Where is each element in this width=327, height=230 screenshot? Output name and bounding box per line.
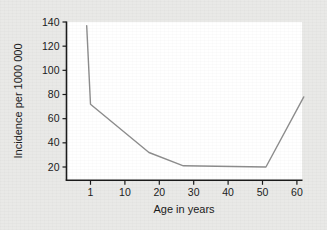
- x-tick-label: 40: [222, 186, 234, 198]
- x-tick-label: 10: [119, 186, 131, 198]
- x-tick-label: 60: [291, 186, 303, 198]
- y-tick-label: 80: [48, 88, 60, 100]
- y-tick-label: 100: [42, 64, 60, 76]
- y-tick-label: 60: [48, 112, 60, 124]
- plot-area-background: [66, 22, 302, 180]
- y-tick-label: 140: [42, 16, 60, 28]
- x-axis-title: Age in years: [153, 203, 215, 215]
- y-tick-label: 20: [48, 161, 60, 173]
- x-tick-label: 50: [257, 186, 269, 198]
- y-tick-label: 120: [42, 40, 60, 52]
- chart-figure: 20406080100120140 1102030405060 Age in y…: [0, 0, 327, 230]
- y-axis-title: Incidence per 1000 000: [12, 44, 24, 159]
- x-tick-label: 30: [188, 186, 200, 198]
- x-tick-label: 20: [153, 186, 165, 198]
- x-tick-label: 1: [88, 186, 94, 198]
- incidence-line-chart: 20406080100120140 1102030405060 Age in y…: [0, 0, 327, 230]
- y-tick-label: 40: [48, 136, 60, 148]
